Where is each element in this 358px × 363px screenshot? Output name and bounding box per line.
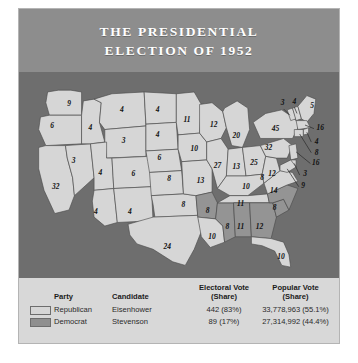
ev-label-IN: 13 xyxy=(232,162,240,171)
state-MN[interactable] xyxy=(176,92,201,135)
ev-label-MT: 4 xyxy=(119,105,124,114)
table-row: DemocratStevenson89 (17%)27,314,992 (44.… xyxy=(29,316,329,328)
ev-label-OR: 6 xyxy=(50,121,54,130)
electoral-vote-cell: 442 (83%) xyxy=(186,304,262,316)
ev-label-PA: 32 xyxy=(264,143,273,152)
party-cell: Democrat xyxy=(54,316,112,328)
electoral-vote-cell: 89 (17%) xyxy=(186,316,262,328)
ev-label-WV: 8 xyxy=(260,173,264,182)
ev-label-CT: 8 xyxy=(315,148,319,157)
state-OR[interactable] xyxy=(39,115,82,145)
state-SD[interactable] xyxy=(146,122,178,151)
state-NE[interactable] xyxy=(146,149,182,172)
ev-label-OH: 25 xyxy=(249,158,258,167)
ev-label-IA: 10 xyxy=(190,144,198,153)
state-shapes xyxy=(39,90,316,267)
map-container: 9632344346444468824111013810812272013251… xyxy=(19,72,339,280)
democrat-swatch xyxy=(30,318,51,327)
ev-label-NE: 6 xyxy=(157,153,161,162)
popular-header-line-2: (Share) xyxy=(282,292,308,301)
leader-line-DE xyxy=(294,163,299,175)
ev-label-AZ: 4 xyxy=(93,207,98,216)
state-MI[interactable] xyxy=(223,101,250,147)
leader-line-NJ xyxy=(296,152,310,164)
table-header-row: Party Candidate Electoral Vote (Share) P… xyxy=(29,283,329,304)
state-WA[interactable] xyxy=(46,90,82,115)
ev-label-NJ: 16 xyxy=(312,158,320,167)
ev-label-FL: 10 xyxy=(277,252,285,261)
ev-label-MD: 9 xyxy=(301,181,305,190)
swatch-cell xyxy=(29,316,54,328)
ev-label-WA: 9 xyxy=(67,99,71,108)
results-table: Party Candidate Electoral Vote (Share) P… xyxy=(29,283,329,328)
popular-vote-column-header: Popular Vote (Share) xyxy=(262,283,329,304)
ev-label-ME: 5 xyxy=(310,101,314,110)
ev-label-NV: 3 xyxy=(71,156,76,165)
legend-panel: Party Candidate Electoral Vote (Share) P… xyxy=(19,278,339,343)
ev-label-DE: 3 xyxy=(302,169,307,178)
party-cell: Republican xyxy=(54,304,112,316)
party-column-header: Party xyxy=(54,283,112,304)
ev-label-TX: 24 xyxy=(163,242,172,251)
ev-label-OK: 8 xyxy=(182,200,186,209)
ev-label-WY: 3 xyxy=(121,136,126,145)
ev-label-VA: 12 xyxy=(268,169,276,178)
ev-label-UT: 4 xyxy=(97,168,102,177)
ev-label-GA: 12 xyxy=(256,222,264,231)
electoral-header-line-1: Electoral Vote xyxy=(199,283,249,292)
ev-label-MS: 8 xyxy=(225,222,229,231)
ev-label-RI: 4 xyxy=(314,137,319,146)
candidate-cell: Eisenhower xyxy=(112,304,186,316)
ev-label-WI: 12 xyxy=(210,120,218,129)
swatch-cell xyxy=(29,304,54,316)
ev-label-ND: 4 xyxy=(155,105,160,114)
ev-label-MA: 16 xyxy=(316,123,324,132)
ev-label-SD: 4 xyxy=(155,130,160,139)
candidate-cell: Stevenson xyxy=(112,316,186,328)
ev-label-AL: 11 xyxy=(237,222,244,231)
state-FL[interactable] xyxy=(251,237,290,267)
ev-label-NC: 14 xyxy=(270,186,278,195)
ev-label-ID: 4 xyxy=(88,123,93,132)
ev-label-MN: 11 xyxy=(183,115,190,124)
ev-label-TN: 11 xyxy=(237,199,244,208)
ev-label-LA: 10 xyxy=(208,232,216,241)
page-title-line-1: THE PRESIDENTIAL xyxy=(100,22,259,41)
figure-header: THE PRESIDENTIAL ELECTION OF 1952 xyxy=(19,9,339,72)
election-map-figure: THE PRESIDENTIAL ELECTION OF 1952 xyxy=(18,8,340,344)
popular-vote-cell: 27,314,992 (44.4%) xyxy=(262,316,329,328)
ev-label-KY: 10 xyxy=(242,182,250,191)
electoral-vote-column-header: Electoral Vote (Share) xyxy=(186,283,262,304)
page-title-line-2: ELECTION OF 1952 xyxy=(105,41,254,60)
table-row: RepublicanEisenhower442 (83%)33,778,963 … xyxy=(29,304,329,316)
candidate-column-header: Candidate xyxy=(112,283,186,304)
leader-line-RI xyxy=(307,132,311,142)
ev-label-CO: 6 xyxy=(132,169,136,178)
us-electoral-map: 9632344346444468824111013810812272013251… xyxy=(19,72,339,280)
ev-label-MI: 20 xyxy=(231,131,240,140)
state-OK[interactable] xyxy=(151,194,197,217)
ev-label-NH: 4 xyxy=(291,97,296,106)
ev-label-NM: 4 xyxy=(127,207,132,216)
popular-header-line-1: Popular Vote xyxy=(272,283,318,292)
ev-label-SC: 8 xyxy=(273,203,277,212)
ev-label-AR: 8 xyxy=(206,206,210,215)
leader-line-CT xyxy=(300,134,312,153)
state-ND[interactable] xyxy=(144,92,176,124)
electoral-header-line-2: (Share) xyxy=(211,292,237,301)
popular-vote-cell: 33,778,963 (55.1%) xyxy=(262,304,329,316)
table-body: RepublicanEisenhower442 (83%)33,778,963 … xyxy=(29,304,329,328)
swatch-column-header xyxy=(29,283,54,304)
ev-label-NY: 45 xyxy=(271,124,280,133)
ev-label-IL: 27 xyxy=(213,161,222,170)
state-CT[interactable] xyxy=(294,130,303,137)
ev-label-MO: 13 xyxy=(197,176,205,185)
state-TX[interactable] xyxy=(128,215,201,265)
republican-swatch xyxy=(30,306,51,315)
ev-label-CA: 32 xyxy=(51,182,60,191)
ev-label-VT: 3 xyxy=(280,98,285,107)
state-NM[interactable] xyxy=(114,187,153,223)
ev-label-KS: 8 xyxy=(167,174,171,183)
